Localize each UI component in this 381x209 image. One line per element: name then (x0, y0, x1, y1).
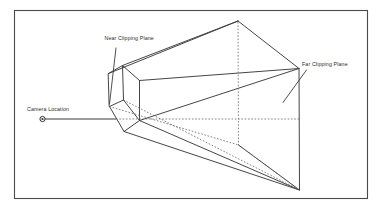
far-clipping-plane-label: Far Clipping Plane (302, 61, 348, 67)
figure-root: Near Clipping Plane Far Clipping Plane C… (0, 0, 381, 209)
near-clipping-plane-label: Near Clipping Plane (105, 35, 154, 41)
camera-location-marker-core (41, 118, 43, 120)
camera-location-label: Camera Location (27, 106, 69, 112)
frustum-diagram: Near Clipping Plane Far Clipping Plane C… (0, 0, 381, 209)
